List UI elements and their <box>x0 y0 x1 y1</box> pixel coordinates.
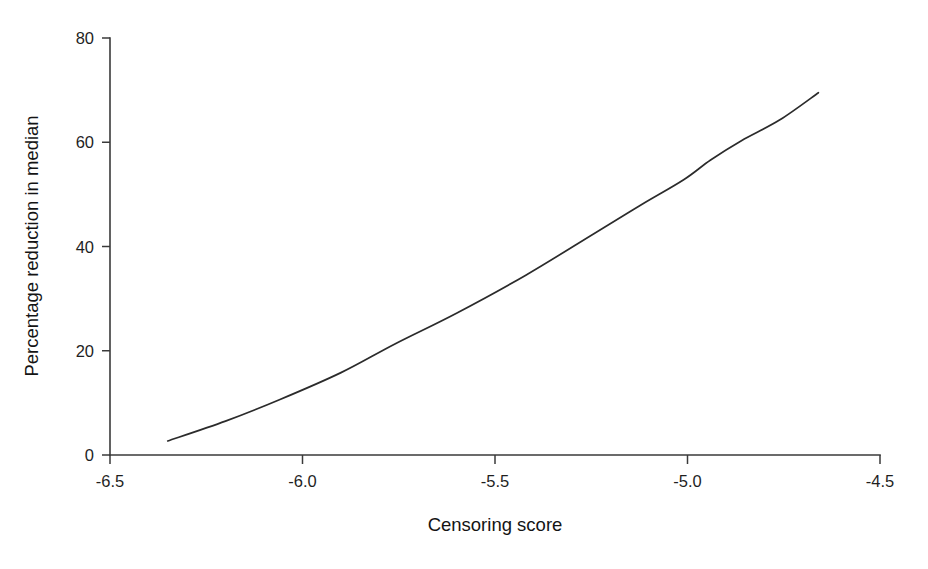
y-tick-label-20: 20 <box>76 342 94 360</box>
line-chart: 0 20 40 60 80 -6.5 -6.0 -5.5 -5.0 -4.5 C… <box>0 0 928 569</box>
x-axis-title: Censoring score <box>428 514 563 535</box>
chart-background <box>0 0 928 569</box>
chart-figure: 0 20 40 60 80 -6.5 -6.0 -5.5 -5.0 -4.5 C… <box>0 0 928 569</box>
y-tick-label-80: 80 <box>76 29 94 47</box>
x-tick-label-neg4-5: -4.5 <box>866 472 894 490</box>
x-tick-label-neg6-0: -6.0 <box>288 472 316 490</box>
y-tick-label-40: 40 <box>76 238 94 256</box>
y-tick-label-0: 0 <box>85 446 94 464</box>
x-tick-label-neg5-0: -5.0 <box>673 472 701 490</box>
y-axis-title: Percentage reduction in median <box>21 115 42 376</box>
y-tick-label-60: 60 <box>76 133 94 151</box>
x-tick-label-neg5-5: -5.5 <box>481 472 509 490</box>
x-tick-label-neg6-5: -6.5 <box>96 472 124 490</box>
